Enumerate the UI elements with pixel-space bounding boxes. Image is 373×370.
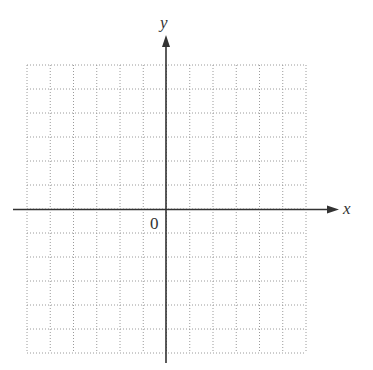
y-axis-label: y [158, 13, 168, 32]
x-axis-label: x [342, 199, 351, 218]
y-axis-arrow-icon [162, 35, 170, 47]
axes [13, 35, 339, 363]
coordinate-plane: x y 0 [0, 0, 373, 370]
x-axis-arrow-icon [327, 206, 339, 214]
origin-label: 0 [150, 214, 159, 233]
